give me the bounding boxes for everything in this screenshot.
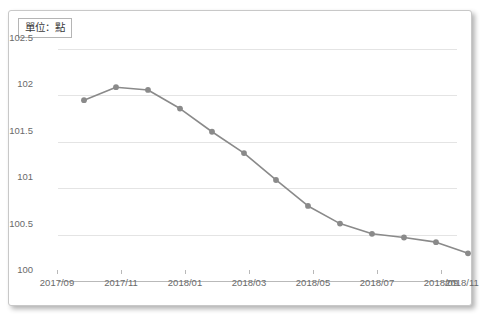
- y-tick-label-101-5: 101.5: [0, 126, 33, 136]
- y-tick-label-101: 101: [0, 172, 33, 182]
- x-tick-mark: [57, 270, 58, 274]
- x-tick-label-2018-01: 2018/01: [155, 277, 215, 288]
- chart-screenshot: 單位：點 102.5 102 101.5 101 100.5 100 2017/…: [0, 0, 488, 321]
- y-tick-label-100-5: 100.5: [0, 219, 33, 229]
- y-tick-label-102: 102: [0, 79, 33, 89]
- x-tick-label-2018-07: 2018/07: [347, 277, 407, 288]
- x-tick-label-2017-11: 2017/11: [91, 277, 151, 288]
- x-tick-mark: [441, 270, 442, 274]
- x-tick-mark: [249, 270, 250, 274]
- gridline-101: [58, 188, 457, 189]
- gridline-102: [58, 95, 457, 96]
- y-tick-label-102-5: 102.5: [0, 33, 33, 43]
- x-tick-label-2017-09: 2017/09: [27, 277, 87, 288]
- x-tick-mark: [185, 270, 186, 274]
- y-tick-label-100: 100: [0, 265, 33, 275]
- plot-area: [58, 49, 457, 281]
- gridline-102-5: [58, 49, 457, 50]
- x-tick-label-2018-11: 2018/11: [432, 277, 488, 288]
- chart-card: 單位：點: [8, 10, 472, 306]
- x-tick-label-2018-05: 2018/05: [283, 277, 343, 288]
- x-tick-mark: [313, 270, 314, 274]
- gridline-101-5: [58, 142, 457, 143]
- x-tick-label-2018-03: 2018/03: [219, 277, 279, 288]
- x-tick-mark: [121, 270, 122, 274]
- gridline-100-5: [58, 235, 457, 236]
- x-tick-mark: [377, 270, 378, 274]
